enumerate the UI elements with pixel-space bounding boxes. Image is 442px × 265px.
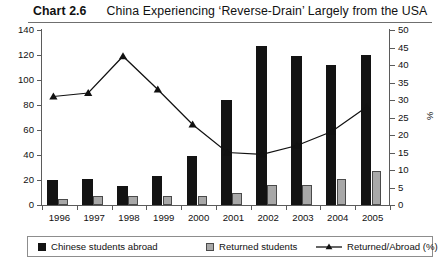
page-title: Chart 2.6 China Experiencing ‘Reverse-Dr… <box>33 4 427 18</box>
x-axis-tick-label: 1997 <box>77 212 112 223</box>
x-axis-tick-label: 2005 <box>355 212 390 223</box>
y-axis-right-tick <box>390 48 395 49</box>
y-axis-left-tick-label: 0 <box>2 200 34 209</box>
y-axis-left-tick-label: 40 <box>2 150 34 159</box>
legend-line-triangle-icon <box>316 242 342 250</box>
y-axis-left-tick-label: 120 <box>2 50 34 59</box>
chart-title-bar: Chart 2.6 China Experiencing ‘Reverse-Dr… <box>0 2 442 24</box>
x-axis-tick-label: 2001 <box>216 212 251 223</box>
y-axis-right-tick <box>390 170 395 171</box>
y-axis-left-tick-label: 140 <box>2 25 34 34</box>
chart-title-text: China Experiencing ‘Reverse-Drain’ Large… <box>107 4 428 18</box>
x-axis-tick <box>286 205 287 210</box>
x-axis-tick-label: 2004 <box>320 212 355 223</box>
y-axis-right-tick <box>390 153 395 154</box>
y-axis-right-tick-label: 0 <box>398 200 403 209</box>
x-axis-tick <box>77 205 78 210</box>
chart-legend: Chinese students abroadReturned students… <box>27 236 433 257</box>
y-axis-right-tick-label: 35 <box>398 78 409 87</box>
legend-item: Returned/Abroad (%) <box>316 241 438 252</box>
y-axis-right-tick-label: 5 <box>398 183 403 192</box>
x-axis-tick-label: 1999 <box>146 212 181 223</box>
y-axis-right-tick <box>390 118 395 119</box>
x-axis-tick <box>181 205 182 210</box>
x-axis-tick-label: 2000 <box>181 212 216 223</box>
y-axis-right-tick <box>390 188 395 189</box>
y-axis-right-tick-label: 40 <box>398 60 409 69</box>
y-axis-right-tick <box>390 83 395 84</box>
chart-figure: Chart 2.6 China Experiencing ‘Reverse-Dr… <box>0 0 442 265</box>
x-axis-tick-label: 2003 <box>286 212 321 223</box>
x-axis-tick <box>355 205 356 210</box>
y-axis-right-tick <box>390 30 395 31</box>
y-axis-right-title: % <box>424 112 435 120</box>
line-marker-triangle <box>119 52 127 59</box>
legend-grey-square-icon <box>206 243 214 251</box>
y-axis-right-tick-label: 20 <box>398 130 409 139</box>
legend-item: Returned students <box>206 241 297 252</box>
x-axis-tick <box>42 205 43 210</box>
title-divider <box>28 22 432 23</box>
y-axis-right-tick <box>390 65 395 66</box>
y-axis-left-tick-label: 20 <box>2 175 34 184</box>
legend-item-label: Returned/Abroad (%) <box>347 241 438 252</box>
legend-item: Chinese students abroad <box>38 241 158 252</box>
y-axis-left-tick-label: 60 <box>2 125 34 134</box>
x-axis-tick <box>112 205 113 210</box>
x-axis-tick <box>216 205 217 210</box>
x-axis-tick <box>320 205 321 210</box>
legend-item-label: Chinese students abroad <box>51 241 158 252</box>
trend-line-path <box>53 56 366 154</box>
x-axis-tick <box>146 205 147 210</box>
legend-item-label: Returned students <box>219 241 297 252</box>
chart-number-label: Chart 2.6 <box>33 4 87 18</box>
y-axis-right-tick-label: 30 <box>398 95 409 104</box>
x-axis-tick-label: 2002 <box>251 212 286 223</box>
y-axis-right-tick-label: 45 <box>398 43 409 52</box>
line-marker-triangle <box>363 103 371 110</box>
x-axis-tick-label: 1998 <box>112 212 147 223</box>
y-axis-left-tick-label: 80 <box>2 100 34 109</box>
y-axis-right-tick-label: 50 <box>398 25 409 34</box>
y-axis-right-tick-label: 25 <box>398 113 409 122</box>
line-series-returned-abroad-pct <box>42 30 390 205</box>
y-axis-right-tick-label: 10 <box>398 165 409 174</box>
y-axis-right-tick <box>390 135 395 136</box>
line-marker-triangle <box>328 127 336 134</box>
legend-dark-square-icon <box>38 243 46 251</box>
y-axis-right-tick-label: 15 <box>398 148 409 157</box>
x-axis-tick-label: 1996 <box>42 212 77 223</box>
x-axis-tick <box>251 205 252 210</box>
y-axis-left-tick-label: 100 <box>2 75 34 84</box>
y-axis-right-tick <box>390 100 395 101</box>
x-axis-tick <box>390 205 391 210</box>
